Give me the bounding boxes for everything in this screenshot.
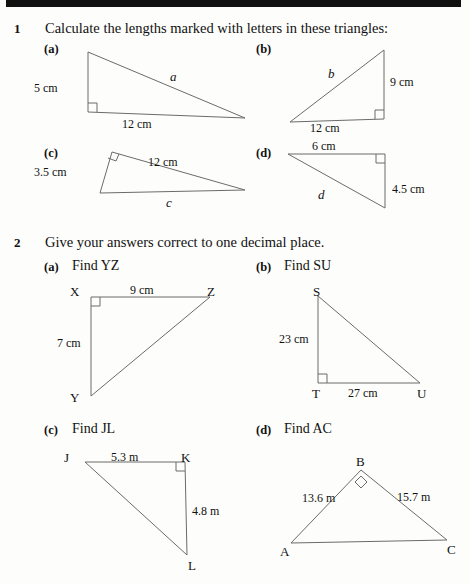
right-angle-marker-2b [318,374,327,383]
question-2a-label: (a) [44,260,59,275]
vertex-label-S: S [313,285,320,298]
label-1b-horizontal: 12 cm [310,122,340,134]
vertex-label-Z: Z [207,285,215,298]
question-2d-text: Find AC [284,421,332,437]
label-2d-right: 15.7 m [397,491,430,503]
figure-2c [79,456,204,566]
label-1c-base: c [166,196,172,209]
worksheet-page: 1 Calculate the lengths marked with lett… [0,0,469,584]
figure-1c [94,144,259,204]
scan-edge-bar [6,0,461,7]
question-2-prompt: Give your answers correct to one decimal… [45,234,324,251]
figure-2b [312,290,437,395]
figure-1a [76,46,261,131]
figure-2d [285,462,460,557]
label-2b-left: 23 cm [279,333,309,345]
question-2-number: 2 [14,235,21,251]
vertex-label-B: B [356,455,365,468]
vertex-label-T: T [312,387,320,400]
vertex-label-A: A [280,545,289,558]
question-2b-text: Find SU [284,258,331,274]
question-1a-label: (a) [44,42,59,57]
vertex-label-Y: Y [70,391,79,404]
vertex-label-U: U [417,387,426,400]
label-1d-top: 6 cm [312,140,336,152]
right-angle-marker-1a [88,103,97,112]
right-angle-marker-2a [91,297,100,306]
vertex-label-C: C [447,543,456,556]
label-1d-vertical: 4.5 cm [392,183,425,195]
question-2c-label: (c) [44,423,58,438]
question-2d-label: (d) [256,423,271,438]
vertex-label-X: X [70,285,79,298]
label-1a-vertical: 5 cm [34,82,58,94]
label-1b-hypotenuse: b [328,67,335,80]
label-2c-top: 5.3 m [111,451,138,463]
question-1-number: 1 [14,21,21,37]
label-1a-hypotenuse: a [170,70,177,83]
question-2c-text: Find JL [72,421,115,437]
question-2b-label: (b) [256,260,271,275]
label-2c-right: 4.8 m [192,505,219,517]
figure-2a [85,291,225,406]
label-1c-upper: 12 cm [148,156,178,168]
question-1d-label: (d) [256,146,271,161]
question-2a-text: Find YZ [72,258,119,274]
right-angle-marker-1b [375,110,384,119]
right-angle-marker-1d [376,154,385,163]
right-angle-marker-2d [355,476,367,488]
question-1-prompt: Calculate the lengths marked with letter… [45,20,388,37]
vertex-label-J: J [64,451,69,464]
label-1b-vertical: 9 cm [390,76,414,88]
label-2a-left: 7 cm [57,337,81,349]
vertex-label-L: L [188,559,196,572]
label-1d-hypotenuse: d [318,188,325,201]
label-2d-left: 13.6 m [302,492,335,504]
label-2b-bottom: 27 cm [348,387,378,399]
label-1c-short: 3.5 cm [34,166,67,178]
question-1c-label: (c) [44,146,58,161]
vertex-label-K: K [181,451,190,464]
question-1b-label: (b) [256,42,271,57]
label-1a-horizontal: 12 cm [122,118,152,130]
label-2a-top: 9 cm [130,284,154,296]
